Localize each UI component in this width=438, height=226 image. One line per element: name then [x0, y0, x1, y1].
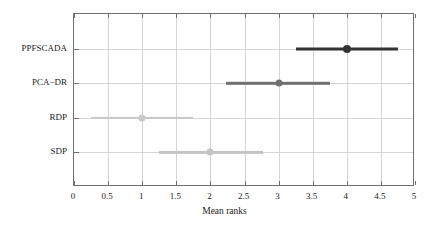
x-axis-tick-top [313, 14, 314, 18]
y-axis-tick [74, 118, 79, 119]
gridline-vertical [210, 14, 211, 185]
x-axis-tick-top [415, 14, 416, 18]
x-axis-tick [347, 181, 348, 185]
x-axis-tick [74, 181, 75, 185]
x-axis-tick-top [176, 14, 177, 18]
plot-area [73, 13, 414, 186]
gridline-vertical [176, 14, 177, 185]
x-axis-tick [381, 181, 382, 185]
gridline-vertical [142, 14, 143, 185]
x-axis-tick [210, 181, 211, 185]
x-axis-tick-label: 2.5 [238, 191, 249, 201]
x-axis-tick-label: 3 [275, 191, 280, 201]
x-axis-tick [245, 181, 246, 185]
category-label-pca-dr: PCA−DR [0, 77, 67, 87]
x-axis-tick-label: 2 [207, 191, 212, 201]
x-axis-tick-top [74, 14, 75, 18]
x-axis-tick [142, 181, 143, 185]
gridline-vertical [279, 14, 280, 185]
x-axis-tick-top [279, 14, 280, 18]
x-axis-tick-label: 4.5 [374, 191, 385, 201]
x-axis-tick-label: 1.5 [170, 191, 181, 201]
gridline-vertical [381, 14, 382, 185]
x-axis-label-text: Mean ranks [202, 206, 247, 216]
mean-rank-marker-ppfscada [343, 45, 351, 53]
x-axis-tick-label: 3.5 [306, 191, 317, 201]
gridline-vertical [108, 14, 109, 185]
x-axis-tick-top [210, 14, 211, 18]
x-axis-tick-label: 0.5 [101, 191, 112, 201]
category-label-rdp: RDP [0, 112, 67, 122]
x-axis-tick [415, 181, 416, 185]
x-axis-tick [108, 181, 109, 185]
x-axis-tick-top [142, 14, 143, 18]
x-axis-tick-top [347, 14, 348, 18]
gridline-vertical [347, 14, 348, 185]
x-axis-tick [279, 181, 280, 185]
gridline-vertical [313, 14, 314, 185]
category-label-sdp: SDP [0, 146, 67, 156]
x-axis-tick-label: 1 [139, 191, 144, 201]
y-axis-tick [74, 49, 79, 50]
gridline-vertical [245, 14, 246, 185]
x-axis-tick-label: 0 [71, 191, 76, 201]
y-axis-tick [74, 83, 79, 84]
chart-figure: 00.511.522.533.544.55 PPFSCADAPCA−DRRDPS… [0, 0, 438, 226]
y-axis-tick [74, 152, 79, 153]
x-axis-tick [313, 181, 314, 185]
x-axis-tick-top [245, 14, 246, 18]
x-axis-tick-top [108, 14, 109, 18]
mean-rank-marker-sdp [207, 149, 214, 156]
x-axis-label: Mean ranks [0, 206, 438, 216]
x-axis-tick-label: 5 [412, 191, 417, 201]
category-label-ppfscada: PPFSCADA [0, 43, 67, 53]
mean-rank-marker-pca-dr [275, 80, 282, 87]
mean-rank-marker-rdp [139, 114, 146, 121]
x-axis-tick [176, 181, 177, 185]
x-axis-tick-label: 4 [344, 191, 349, 201]
x-axis-tick-top [381, 14, 382, 18]
